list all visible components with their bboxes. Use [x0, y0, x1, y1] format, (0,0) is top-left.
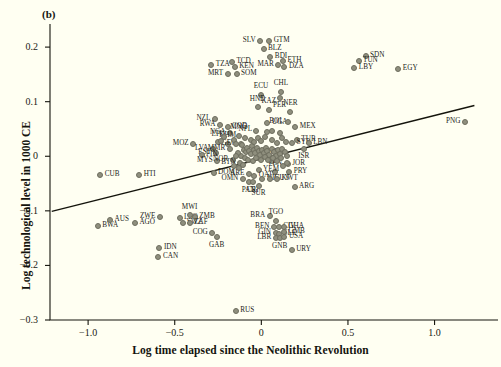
y-tick-label: 0.2	[0, 41, 38, 52]
axis-ticks-layer: 0.20.10−0.1−0.2−0.3−1.0−0.500.51.0	[0, 0, 501, 367]
x-tick-label: 0.5	[328, 327, 368, 338]
y-tick-label: −0.3	[0, 314, 38, 325]
y-tick-label: 0.1	[0, 96, 38, 107]
x-tick-label: −0.5	[155, 327, 195, 338]
x-tick-label: −1.0	[68, 327, 108, 338]
x-axis-title: Log time elapsed since the Neolithic Rev…	[0, 344, 501, 356]
scatter-plot-figure: (b) GTMSLVBLZBDIETHMARDZATZATCDKENMRTSOM…	[0, 0, 501, 367]
x-tick-label: 1.0	[415, 327, 455, 338]
y-tick-label: 0	[0, 150, 38, 161]
y-tick-label: −0.1	[0, 205, 38, 216]
y-axis-title: Log technological level in 1000 CE	[20, 121, 32, 290]
x-tick-label: 0	[241, 327, 281, 338]
y-tick-label: −0.2	[0, 259, 38, 270]
